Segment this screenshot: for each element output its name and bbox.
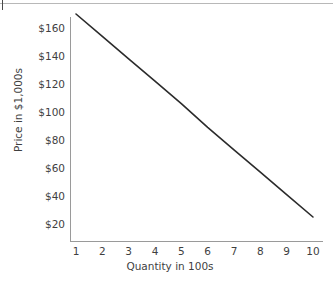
chart-figure: $160$140$120$100$80$60$40$20 12345678910… bbox=[0, 0, 333, 286]
demand-line-series bbox=[76, 14, 313, 217]
plot-area bbox=[0, 0, 333, 286]
